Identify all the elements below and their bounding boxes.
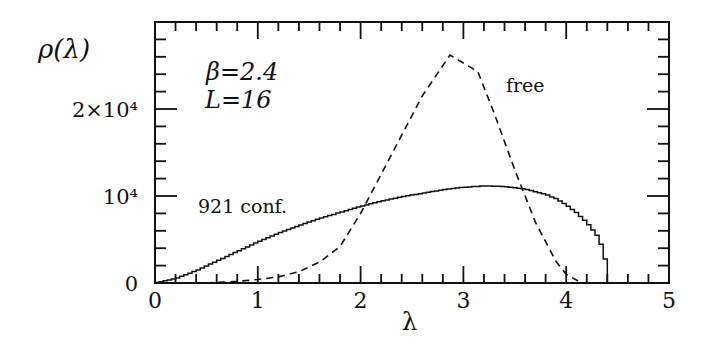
free-annotation: free: [506, 74, 545, 96]
y-axis-label: ρ(λ): [37, 34, 90, 64]
x-axis-label: λ: [402, 308, 417, 336]
y-tick-label: 0: [125, 272, 138, 296]
density-chart: 012345010⁴2×10⁴ ρ(λ) λ β=2.4L=16free921 …: [0, 0, 708, 359]
y-tick-label: 2×10⁴: [72, 98, 138, 122]
x-tick-label: 1: [251, 288, 265, 313]
x-tick-label: 0: [148, 288, 162, 313]
x-tick-label: 3: [456, 288, 470, 313]
lattice-size-annotation: L=16: [204, 86, 272, 114]
x-tick-label: 4: [559, 288, 573, 313]
beta-annotation: β=2.4: [205, 58, 278, 86]
conf-annotation: 921 conf.: [198, 195, 287, 217]
annotations: β=2.4L=16free921 conf.: [198, 58, 545, 217]
x-tick-label: 5: [662, 288, 676, 313]
y-tick-label: 10⁴: [103, 185, 138, 209]
x-tick-label: 2: [354, 288, 368, 313]
